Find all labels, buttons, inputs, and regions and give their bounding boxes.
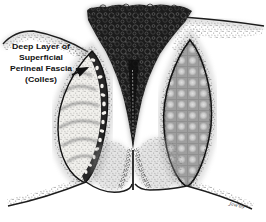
label-line-2: Superficial	[19, 53, 63, 62]
label-line-1: Deep Layer of	[12, 42, 70, 51]
anatomical-illustration: Deep Layer of Superficial Perineal Fasci…	[0, 0, 266, 222]
label-line-3: Perineal Fascia	[10, 64, 73, 73]
perineum-figure-svg: Deep Layer of Superficial Perineal Fasci…	[0, 0, 266, 222]
label-line-4: (Colles)	[25, 75, 57, 84]
